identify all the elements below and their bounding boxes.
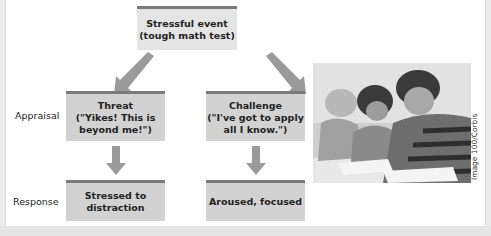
down-arrow-left-icon — [106, 146, 126, 176]
stressful-event-box: Stressful event (tough math test) — [137, 6, 237, 50]
challenge-box: Challenge ("I've got to apply all I know… — [206, 91, 305, 141]
response-label: Response — [13, 196, 59, 207]
students-photo — [313, 63, 471, 183]
stressed-box: Stressed to distraction — [66, 180, 165, 221]
bottom-strip — [0, 226, 491, 236]
aroused-box: Aroused, focused — [206, 180, 305, 221]
diagonal-arrows-icon — [110, 52, 310, 96]
threat-box: Threat ("Yikes! This is beyond me!") — [66, 91, 165, 141]
appraisal-label: Appraisal — [15, 110, 59, 121]
down-arrow-right-icon — [246, 146, 266, 176]
photo-credit: Image 100/Corbis — [470, 114, 479, 180]
